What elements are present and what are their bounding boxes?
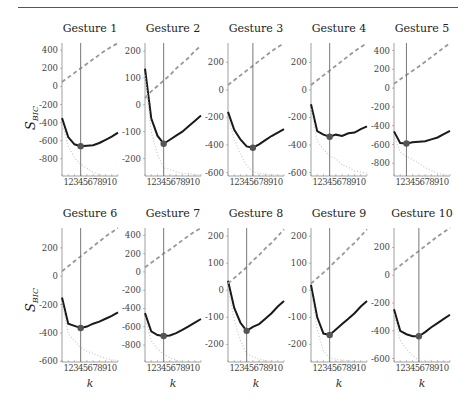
x-axis-label: k [419, 377, 426, 390]
bic-curve [228, 112, 284, 148]
y-tick-label: 400 [374, 46, 390, 56]
panel-gesture-2: Gesture 22001000-100-20012345678910 [122, 22, 201, 187]
y-tick-label: 200 [291, 57, 307, 67]
y-tick-label: -600 [122, 322, 141, 332]
penalty-curve [62, 43, 118, 82]
penalty-curve [145, 228, 201, 267]
panel-title: Gesture 7 [146, 207, 201, 220]
panel-title: Gesture 5 [395, 22, 450, 35]
y-tick-label: 200 [125, 46, 141, 56]
penalty-curve [145, 46, 201, 98]
y-tick-label: 0 [136, 267, 141, 277]
penalty-curve [228, 229, 284, 283]
panel-gesture-5: Gesture 54002000-200-400-600-80012345678… [371, 22, 450, 187]
panel-gesture-10: Gesture 102000-200-400-60012345678910k [371, 207, 453, 390]
min-bic-marker [160, 333, 166, 339]
panel-title: Gesture 8 [229, 207, 284, 220]
min-bic-marker [77, 143, 83, 149]
x-tick-labels: 12345678910 [313, 177, 366, 187]
y-tick-label: -200 [288, 112, 307, 122]
penalty-curve [228, 43, 284, 85]
bic-curve [311, 104, 367, 136]
y-tick-label: 0 [385, 270, 390, 280]
panel-title: Gesture 3 [229, 22, 284, 35]
bic-curve [311, 285, 367, 335]
min-bic-marker [403, 140, 409, 146]
y-tick-label: 100 [291, 258, 307, 268]
y-tick-label: -800 [122, 340, 141, 350]
min-bic-marker [416, 333, 422, 339]
y-tick-label: 0 [136, 100, 141, 110]
x-tick-labels: 12345678910 [64, 363, 117, 373]
x-axis-label: k [87, 377, 94, 390]
ylabel-row-2: SBIC [23, 288, 40, 312]
x-tick-labels: 12345678910 [396, 177, 449, 187]
y-tick-label: 0 [219, 285, 224, 295]
panel-title: Gesture 9 [312, 207, 367, 220]
y-tick-label: -600 [39, 356, 58, 366]
y-tick-label: 400 [42, 45, 58, 55]
min-bic-marker [250, 145, 256, 151]
panel-gesture-9: Gesture 92001000-100-20012345678910k [288, 207, 367, 390]
bic-curve [394, 309, 450, 336]
panel-gesture-6: Gesture 62000-200-400-60012345678910k [39, 207, 118, 390]
bic-curve [145, 69, 201, 144]
y-tick-label: -400 [39, 118, 58, 128]
y-tick-label: -600 [39, 136, 58, 146]
penalty-curve [311, 43, 367, 85]
y-tick-label: -200 [122, 154, 141, 164]
y-tick-label: 100 [208, 258, 224, 268]
y-tick-label: 100 [125, 73, 141, 83]
y-tick-label: -200 [39, 100, 58, 110]
y-tick-label: -400 [205, 140, 224, 150]
panel-title: Gesture 2 [146, 22, 201, 35]
y-tick-label: 200 [42, 243, 58, 253]
min-bic-marker [326, 332, 332, 338]
y-tick-label: -200 [39, 300, 58, 310]
y-tick-label: 200 [374, 242, 390, 252]
y-tick-label: -200 [205, 339, 224, 349]
y-tick-label: 0 [302, 285, 307, 295]
y-tick-label: -400 [39, 328, 58, 338]
x-tick-labels: 12345678910 [396, 363, 449, 373]
y-tick-label: 400 [125, 230, 141, 240]
penalty-curve [394, 43, 450, 84]
likelihood-curve [62, 302, 118, 360]
panel-title: Gesture 6 [63, 207, 118, 220]
bic-curve [394, 131, 450, 144]
y-tick-label: -800 [39, 154, 58, 164]
min-bic-marker [77, 325, 83, 331]
panel-gesture-8: Gesture 82001000-100-20012345678910k [205, 207, 284, 390]
y-tick-label: 0 [385, 83, 390, 93]
y-tick-label: -400 [288, 140, 307, 150]
svg-text:SBIC: SBIC [23, 106, 40, 130]
y-tick-label: 200 [374, 64, 390, 74]
likelihood-curve [311, 109, 367, 173]
y-tick-label: 0 [219, 85, 224, 95]
panel-gesture-7: Gesture 74002000-200-400-600-80012345678… [122, 207, 201, 390]
y-tick-label: -200 [371, 298, 390, 308]
x-axis-label: k [170, 377, 177, 390]
y-tick-label: -800 [371, 158, 390, 168]
min-bic-marker [243, 328, 249, 334]
y-tick-label: 0 [53, 81, 58, 91]
y-tick-label: -400 [122, 303, 141, 313]
y-tick-label: -400 [371, 326, 390, 336]
y-tick-label: -600 [371, 354, 390, 364]
y-tick-label: 200 [208, 57, 224, 67]
ylabel-row-1: SBIC [23, 106, 40, 130]
y-tick-label: -200 [205, 112, 224, 122]
y-tick-label: 200 [42, 63, 58, 73]
panel-title: Gesture 1 [63, 22, 118, 35]
x-axis-label: k [253, 377, 260, 390]
bic-curve [228, 281, 284, 331]
min-bic-marker [326, 134, 332, 140]
y-tick-label: 200 [125, 249, 141, 259]
y-tick-label: -600 [371, 140, 390, 150]
panel-gesture-1: Gesture 14002000-200-400-600-80012345678… [39, 22, 118, 187]
x-tick-labels: 12345678910 [230, 363, 283, 373]
svg-text:SBIC: SBIC [23, 288, 40, 312]
y-tick-label: 0 [53, 271, 58, 281]
y-tick-label: -200 [288, 339, 307, 349]
penalty-curve [311, 229, 367, 283]
